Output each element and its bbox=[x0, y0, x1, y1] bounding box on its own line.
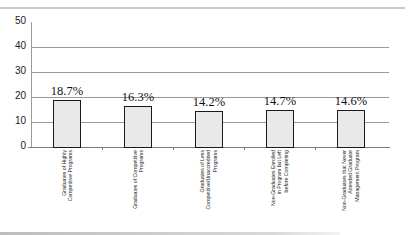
bar-competitive bbox=[124, 106, 152, 148]
data-label: 16.3% bbox=[108, 90, 168, 105]
data-label: 18.7% bbox=[37, 84, 97, 99]
category-label: Non-Graduates Enrolled in Program but Le… bbox=[260, 150, 300, 220]
x-tick bbox=[102, 147, 103, 150]
x-tick bbox=[244, 147, 245, 150]
data-label: 14.2% bbox=[179, 95, 239, 110]
category-label: Graduates of Less Competitive/Unaccredit… bbox=[189, 150, 229, 220]
ytick-label: 10 bbox=[2, 115, 26, 126]
category-label: Non-Graduates that Never Attended Gradua… bbox=[331, 150, 371, 220]
gridline bbox=[31, 47, 389, 48]
x-tick bbox=[173, 147, 174, 150]
gridline bbox=[31, 72, 389, 73]
bar-non-graduates-never-attended bbox=[337, 110, 365, 148]
ytick-label: 30 bbox=[2, 65, 26, 76]
x-tick bbox=[315, 147, 316, 150]
bar-highly-competitive bbox=[53, 100, 81, 148]
data-label: 14.6% bbox=[321, 94, 381, 109]
category-label: Graduates of Highly Competitive Programs bbox=[47, 150, 87, 220]
ytick-label: 40 bbox=[2, 40, 26, 51]
ytick-label: 50 bbox=[2, 15, 26, 26]
category-label: Graduates of Competitive Programs bbox=[118, 150, 158, 220]
ytick-label: 20 bbox=[2, 90, 26, 101]
bar-less-competitive bbox=[195, 111, 223, 148]
bar-chart: 50 40 30 20 10 0 18.7% 16.3% 14.2% 14.7%… bbox=[0, 0, 412, 235]
ytick-label: 0 bbox=[2, 140, 26, 151]
y-axis bbox=[31, 22, 32, 148]
bottom-rule bbox=[0, 232, 340, 235]
data-label: 14.7% bbox=[250, 94, 310, 109]
bar-non-graduates-left bbox=[266, 110, 294, 148]
